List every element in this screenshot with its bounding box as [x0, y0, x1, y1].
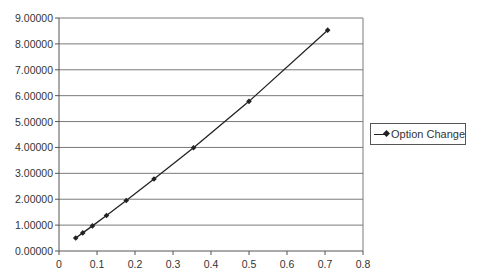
y-axis-tick-labels: 0.000001.000002.000003.000004.000005.000… [15, 12, 53, 257]
series-option-change [73, 27, 331, 240]
x-tick-label: 0.2 [128, 258, 143, 270]
legend: Option Change [370, 123, 466, 145]
series-line [76, 30, 328, 238]
x-tick-label: 0.6 [280, 258, 295, 270]
x-tick-label: 0.1 [90, 258, 105, 270]
x-tick-label: 0.7 [318, 258, 333, 270]
x-axis-tick-labels: 00.10.20.30.40.50.60.70.8 [56, 258, 370, 270]
line-diamond-marker-icon [374, 129, 388, 139]
y-tick-label: 9.00000 [15, 12, 53, 24]
y-tick-label: 4.00000 [15, 141, 53, 153]
y-tick-label: 8.00000 [15, 38, 53, 50]
y-tick-label: 3.00000 [15, 167, 53, 179]
gridlines [59, 18, 363, 225]
x-tick-label: 0.8 [356, 258, 371, 270]
x-tick-label: 0.4 [204, 258, 219, 270]
y-tick-label: 2.00000 [15, 193, 53, 205]
x-tick-label: 0 [56, 258, 62, 270]
y-tick-label: 1.00000 [15, 219, 53, 231]
x-tick-label: 0.3 [166, 258, 181, 270]
y-tick-label: 7.00000 [15, 64, 53, 76]
legend-label: Option Change [391, 128, 465, 140]
y-tick-label: 0.00000 [15, 245, 53, 257]
x-tick-label: 0.5 [242, 258, 257, 270]
y-tick-label: 5.00000 [15, 116, 53, 128]
y-tick-label: 6.00000 [15, 90, 53, 102]
